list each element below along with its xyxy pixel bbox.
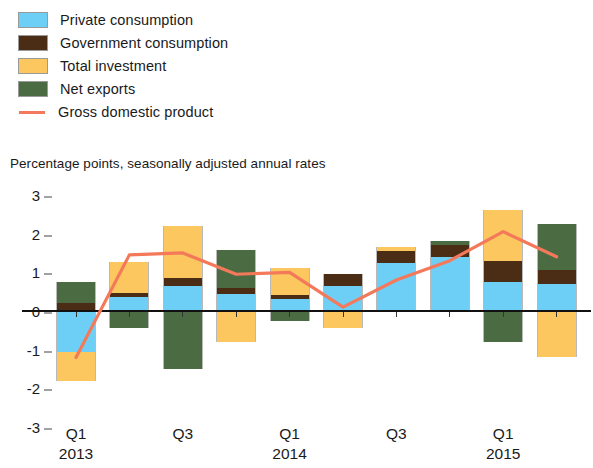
color-swatch xyxy=(18,58,48,74)
legend-item-label: Gross domestic product xyxy=(58,104,213,120)
legend-item: Government consumption xyxy=(18,31,228,54)
y-axis-tick-label: 1 xyxy=(14,264,40,281)
x-axis-label-group: Q12015 xyxy=(486,424,520,464)
x-axis-label-group: Q3 xyxy=(386,424,407,444)
chart-legend: Private consumptionGovernment consumptio… xyxy=(18,8,228,123)
x-axis-quarter-label: Q3 xyxy=(172,424,193,444)
legend-item-label: Private consumption xyxy=(60,12,193,28)
x-axis-label-group: Q12013 xyxy=(59,424,93,464)
x-axis: Q12013Q3Q12014Q3Q12015 xyxy=(0,424,593,468)
chart-plot-area: 3210-1-2-3 xyxy=(0,186,593,421)
legend-item: Net exports xyxy=(18,77,228,100)
legend-item: Total investment xyxy=(18,54,228,77)
chart-subtitle: Percentage points, seasonally adjusted a… xyxy=(10,156,326,171)
x-axis-quarter-label: Q3 xyxy=(386,424,407,444)
x-axis-year-label: 2013 xyxy=(59,444,93,464)
x-axis-quarter-label: Q1 xyxy=(486,424,520,444)
legend-item: Private consumption xyxy=(18,8,228,31)
legend-item-label: Net exports xyxy=(60,81,135,97)
color-swatch xyxy=(18,81,48,97)
plot-inner: 3210-1-2-3 xyxy=(0,186,593,421)
y-axis-tick-label: 3 xyxy=(14,186,40,203)
x-axis-quarter-label: Q1 xyxy=(272,424,306,444)
line-swatch xyxy=(18,105,46,119)
legend-item-label: Total investment xyxy=(60,58,166,74)
gdp-line-series xyxy=(50,186,593,421)
y-axis-tick-label: 2 xyxy=(14,225,40,242)
color-swatch xyxy=(18,35,48,51)
y-axis-tick-label: -2 xyxy=(14,380,40,397)
legend-item: Gross domestic product xyxy=(18,100,228,123)
gdp-line-path xyxy=(76,232,557,358)
legend-item-label: Government consumption xyxy=(60,35,228,51)
y-axis-tick-label: -1 xyxy=(14,341,40,358)
x-axis-quarter-label: Q1 xyxy=(59,424,93,444)
x-axis-label-group: Q12014 xyxy=(272,424,306,464)
color-swatch xyxy=(18,12,48,28)
x-axis-year-label: 2015 xyxy=(486,444,520,464)
x-axis-label-group: Q3 xyxy=(172,424,193,444)
x-axis-year-label: 2014 xyxy=(272,444,306,464)
